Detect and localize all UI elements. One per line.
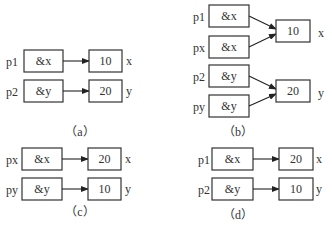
target-value: 10 bbox=[290, 182, 302, 196]
target-value: 20 bbox=[290, 152, 302, 166]
panel-d: p1 &x p2 &y 20 x 10 y （d） bbox=[198, 148, 322, 222]
pointer-value: &x bbox=[221, 9, 236, 23]
pointer-label: p1 bbox=[6, 55, 18, 69]
pointer-value: &x bbox=[34, 152, 49, 166]
pointer-value: &x bbox=[36, 54, 51, 68]
pointer-p1: p1 &x bbox=[198, 148, 253, 170]
target-label: x bbox=[318, 26, 324, 40]
target-y: 10 y bbox=[279, 178, 322, 200]
pointer-value: &x bbox=[221, 40, 236, 54]
pointer-value: &y bbox=[34, 182, 49, 196]
pointer-px: px &x bbox=[6, 148, 62, 170]
target-label: x bbox=[125, 152, 131, 166]
pointer-p2: p2 &y bbox=[198, 178, 253, 200]
pointer-p2: p2 &y bbox=[193, 65, 249, 87]
target-label: y bbox=[125, 182, 131, 196]
target-value: 20 bbox=[99, 152, 111, 166]
pointer-value: &y bbox=[36, 84, 51, 98]
pointer-label: p2 bbox=[193, 70, 205, 84]
pointer-py: py &y bbox=[6, 178, 62, 200]
target-y: 10 y bbox=[88, 178, 131, 200]
pointer-p1: p1 &x bbox=[193, 5, 249, 27]
target-value: 10 bbox=[99, 182, 111, 196]
target-y: 20 y bbox=[276, 80, 324, 102]
pointer-label: p2 bbox=[198, 183, 210, 197]
pointer-value: &y bbox=[221, 99, 236, 113]
panel-b: p1 &x px &x p2 &y py &y 10 x bbox=[193, 5, 324, 139]
pointer-diagram: p1 &x p2 &y 10 x 20 y （a） p1 &x bbox=[0, 0, 332, 233]
pointer-p2: p2 &y bbox=[6, 80, 63, 102]
pointer-px: px &x bbox=[193, 36, 249, 58]
pointer-value: &y bbox=[221, 69, 236, 83]
pointer-label: p1 bbox=[193, 10, 205, 24]
target-label: x bbox=[126, 54, 132, 68]
arrow-icon bbox=[249, 34, 276, 47]
arrow-icon bbox=[249, 94, 276, 106]
target-x: 20 x bbox=[279, 148, 322, 170]
pointer-label: px bbox=[193, 41, 205, 55]
pointer-value: &x bbox=[225, 152, 240, 166]
pointer-label: p1 bbox=[198, 153, 210, 167]
target-label: y bbox=[126, 84, 132, 98]
target-label: y bbox=[318, 86, 324, 100]
target-x: 10 x bbox=[276, 20, 324, 42]
pointer-label: py bbox=[193, 100, 205, 114]
target-x: 20 x bbox=[88, 148, 131, 170]
target-label: x bbox=[316, 152, 322, 166]
pointer-label: px bbox=[6, 153, 18, 167]
pointer-value: &y bbox=[225, 182, 240, 196]
caption: （c） bbox=[65, 205, 94, 219]
pointer-label: p2 bbox=[6, 85, 18, 99]
caption: （b） bbox=[223, 125, 253, 139]
target-y: 20 y bbox=[89, 80, 132, 102]
pointer-label: py bbox=[6, 183, 18, 197]
panel-c: px &x py &y 20 x 10 y （c） bbox=[6, 148, 131, 219]
target-x: 10 x bbox=[89, 50, 132, 72]
target-value: 20 bbox=[287, 84, 299, 98]
arrow-icon bbox=[249, 76, 276, 89]
pointer-py: py &y bbox=[193, 95, 249, 117]
caption: （d） bbox=[223, 208, 253, 222]
panel-a: p1 &x p2 &y 10 x 20 y （a） bbox=[6, 50, 132, 139]
pointer-p1: p1 &x bbox=[6, 50, 63, 72]
target-value: 10 bbox=[100, 54, 112, 68]
arrow-icon bbox=[249, 16, 276, 29]
target-label: y bbox=[316, 182, 322, 196]
target-value: 10 bbox=[287, 24, 299, 38]
caption: （a） bbox=[65, 125, 94, 139]
target-value: 20 bbox=[100, 84, 112, 98]
